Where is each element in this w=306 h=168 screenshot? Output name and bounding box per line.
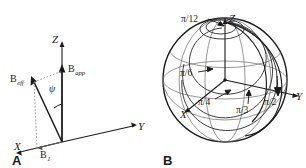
panel-b-label-pi-over-6: π/6 [180,68,192,78]
figure-canvas: Z Y X Bapp Beff [0,0,306,168]
panel-a-z-label: Z [52,33,59,45]
panel-a-psi-label: ψ [49,83,56,94]
figure-background [0,0,306,168]
panel-b-label-pi-over-2: π/2 [264,97,276,107]
panel-a-x-label: X [13,140,22,152]
panel-b-label-pi-over-3: π/3 [236,105,248,115]
panel-a-letter: A [12,153,22,168]
panel-b-x-label: X [179,108,188,120]
panel-b-label-pi-over-4: π/4 [198,97,210,107]
panel-b-label-pi-over-12: π/12 [181,14,198,24]
panel-b-origin-dot [223,78,226,81]
panel-b-letter: B [163,153,172,168]
